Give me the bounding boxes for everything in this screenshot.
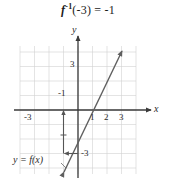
x-axis-label: x bbox=[154, 104, 158, 114]
x-tick-label-1: 1 bbox=[90, 113, 95, 122]
y-tick-label-3: 3 bbox=[70, 60, 75, 69]
inverse-function-figure: f-1(-3) = -1 bbox=[0, 0, 176, 185]
x-tick-label-3: 3 bbox=[119, 113, 124, 122]
x-tick-label-2: 2 bbox=[104, 113, 109, 122]
x-value-annotation-neg1: -1 bbox=[58, 89, 66, 98]
y-axis-label: y bbox=[72, 25, 76, 35]
function-curve-label: y = f(x) bbox=[13, 155, 43, 165]
x-tick-label-neg3: -3 bbox=[24, 113, 32, 122]
y-tick-label-neg3: -3 bbox=[81, 149, 89, 158]
